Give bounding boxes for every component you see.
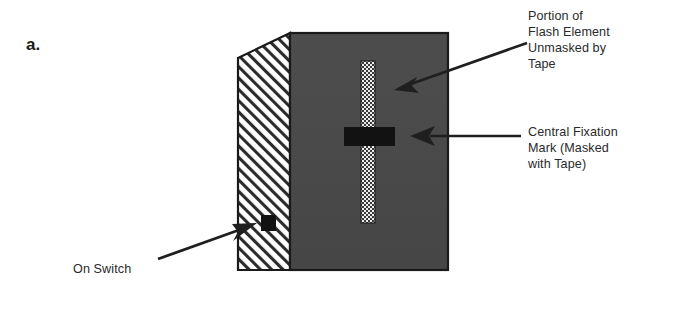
figure-panel-a: a. Portion of Flash Element Unmasked by … — [0, 0, 675, 319]
central-fixation-mark — [344, 127, 395, 146]
panel-label: a. — [26, 36, 40, 53]
on-switch-button[interactable] — [261, 215, 276, 231]
device-side-face-hatched — [238, 33, 290, 270]
callout-on-switch-label: On Switch — [73, 261, 193, 277]
callout-fixation-mark-label: Central Fixation Mark (Masked with Tape) — [528, 124, 670, 172]
callout-flash-element-label: Portion of Flash Element Unmasked by Tap… — [528, 8, 670, 72]
